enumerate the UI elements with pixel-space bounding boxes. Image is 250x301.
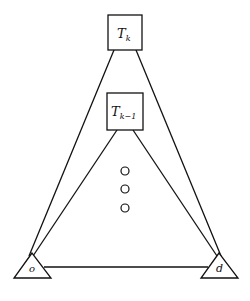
node-d: d bbox=[201, 253, 238, 278]
edge-d-tk1 bbox=[133, 130, 217, 256]
ellipsis-dots bbox=[121, 167, 129, 212]
network-diagram: Tk Tk−1 o d bbox=[0, 0, 250, 301]
edges bbox=[29, 50, 221, 267]
o-label: o bbox=[29, 263, 35, 274]
ellipsis-dot-icon bbox=[121, 185, 129, 193]
node-o: o bbox=[14, 253, 51, 278]
edge-o-tk1 bbox=[33, 130, 117, 256]
ellipsis-dot-icon bbox=[121, 167, 129, 175]
diagram-svg: Tk Tk−1 o d bbox=[0, 0, 250, 301]
node-tk: Tk bbox=[108, 15, 142, 50]
node-tk-1: Tk−1 bbox=[107, 93, 143, 130]
ellipsis-dot-icon bbox=[121, 204, 129, 212]
d-label: d bbox=[216, 262, 223, 275]
